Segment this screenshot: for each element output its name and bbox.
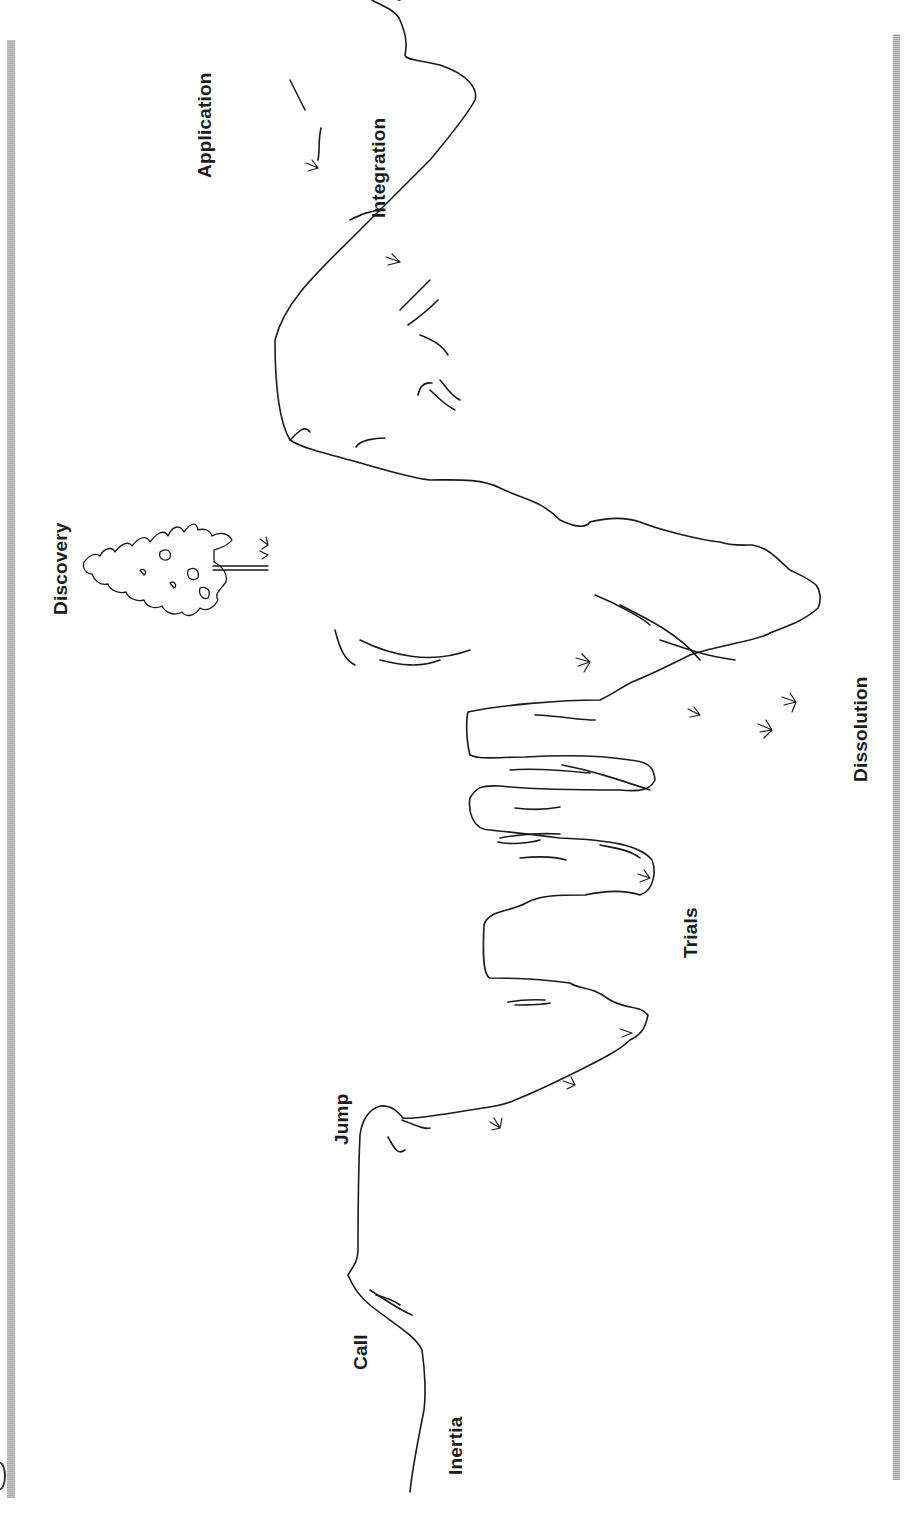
journey-path bbox=[275, 0, 820, 1492]
stage-label-application: Application bbox=[194, 72, 216, 178]
pine-tree-icon bbox=[83, 524, 268, 615]
journey-diagram bbox=[0, 0, 919, 1513]
stage-label-integration: Integration bbox=[368, 118, 390, 218]
grass-tufts bbox=[260, 160, 796, 1130]
contour-strokes bbox=[290, 80, 735, 1315]
stage-label-trials: Trials bbox=[680, 907, 702, 958]
stage-label-discovery: Discovery bbox=[50, 522, 72, 615]
stage-label-jump: Jump bbox=[331, 1094, 353, 1145]
stage-label-call: Call bbox=[350, 1334, 372, 1370]
stage-label-dissolution: Dissolution bbox=[850, 676, 872, 782]
stage-label-inertia: Inertia bbox=[445, 1417, 467, 1475]
